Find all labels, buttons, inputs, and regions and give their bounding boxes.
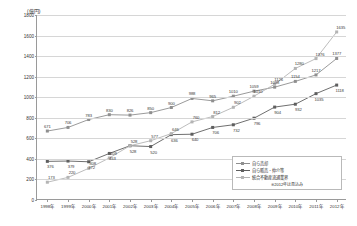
x-axis-tick-label: 2006年	[206, 203, 220, 209]
data-point-label: 812	[213, 109, 220, 114]
data-point-marker	[170, 132, 173, 135]
y-axis-tick-mark	[35, 138, 37, 139]
x-axis-tick-label: 2008年	[247, 203, 261, 209]
x-axis-tick-mark	[109, 199, 110, 202]
data-point-label: 965	[209, 93, 216, 98]
x-axis-tick-mark	[89, 199, 90, 202]
x-axis-tick-mark	[233, 199, 234, 202]
y-axis-tick-label: 200	[26, 177, 34, 182]
gridline	[37, 36, 346, 37]
legend-swatch-icon-0	[236, 160, 250, 166]
gridline	[37, 15, 346, 16]
data-point-label: 646	[172, 126, 179, 131]
data-point-marker	[191, 133, 194, 136]
x-axis-tick-label: 2003年	[144, 203, 158, 209]
legend-item-2[interactable]: 統合不動産流通業界	[236, 174, 338, 180]
data-point-label: 1377	[332, 51, 341, 56]
data-point-marker	[108, 113, 111, 116]
data-point-marker	[232, 123, 235, 126]
data-point-label: 830	[106, 107, 113, 112]
data-point-label: 1217	[312, 67, 321, 72]
data-point-label: 1376	[316, 51, 325, 56]
legend-item-1[interactable]: 自ら販売・仲介等	[236, 167, 338, 173]
x-axis-tick-mark	[275, 199, 276, 202]
data-point-label: 577	[151, 133, 158, 138]
x-axis-tick-mark	[130, 199, 131, 202]
y-axis-tick-label: 1800	[24, 13, 34, 18]
x-axis-tick-mark	[68, 199, 69, 202]
data-point-marker	[294, 80, 297, 83]
y-axis-tick-mark	[35, 159, 37, 160]
data-point-marker	[315, 92, 318, 95]
data-point-label: 796	[254, 121, 261, 126]
data-point-marker	[191, 120, 194, 123]
data-point-label: 453	[109, 156, 116, 161]
data-point-label: 760	[193, 114, 200, 119]
data-point-label: 220	[69, 170, 76, 175]
y-axis-tick-mark	[35, 36, 37, 37]
data-point-marker	[129, 144, 132, 147]
y-axis-tick-mark	[35, 179, 37, 180]
data-point-marker	[46, 130, 49, 133]
data-point-label: 1126	[274, 77, 283, 82]
data-point-marker	[211, 99, 214, 102]
y-axis-tick-mark	[35, 118, 37, 119]
data-point-label: 706	[212, 130, 219, 135]
y-axis-tick-label: 400	[26, 156, 34, 161]
data-point-label: 1035	[315, 96, 324, 101]
x-axis-tick-mark	[316, 199, 317, 202]
data-point-label: 988	[189, 91, 196, 96]
data-point-marker	[315, 57, 318, 60]
x-axis-tick-mark	[295, 199, 296, 202]
data-point-marker	[46, 160, 49, 163]
data-point-label: 732	[233, 127, 240, 132]
data-point-label: 409	[110, 150, 117, 155]
data-point-marker	[149, 145, 152, 148]
x-axis-tick-mark	[213, 199, 214, 202]
data-point-label: 1118	[336, 88, 344, 93]
data-point-marker	[335, 84, 338, 87]
data-point-marker	[67, 176, 70, 179]
data-point-marker	[335, 57, 338, 60]
x-axis-tick-label: 1998年	[40, 203, 54, 209]
data-point-label: 640	[192, 137, 199, 142]
data-point-label: 520	[150, 149, 157, 154]
data-point-label: 1010	[254, 89, 263, 94]
data-point-marker	[211, 126, 214, 129]
data-point-label: 932	[295, 107, 302, 112]
data-point-label: 826	[127, 108, 134, 113]
data-point-marker	[273, 86, 276, 89]
legend-item-0[interactable]: 自ら売却	[236, 160, 338, 166]
data-point-label: 1635	[336, 24, 345, 29]
data-point-marker	[149, 139, 152, 142]
y-axis-tick-mark	[35, 200, 37, 201]
y-axis-tick-label: 600	[26, 136, 34, 141]
data-point-label: 902	[234, 100, 241, 105]
x-axis-tick-label: 2004年	[164, 203, 178, 209]
data-point-marker	[294, 67, 297, 70]
data-point-marker	[67, 126, 70, 129]
chart-screenshot: (億円) 02004006008001000120014001600180019…	[0, 0, 357, 226]
y-axis-tick-label: 1200	[24, 74, 34, 79]
data-point-label: 376	[47, 164, 54, 169]
x-axis-tick-mark	[171, 199, 172, 202]
data-point-label: 1280	[295, 61, 304, 66]
data-point-label: 900	[168, 100, 175, 105]
x-axis-tick-mark	[192, 199, 193, 202]
data-point-label: 706	[65, 120, 72, 125]
legend-label-1: 自ら販売・仲介等	[252, 167, 284, 173]
data-point-marker	[129, 114, 132, 117]
data-point-label: 1010	[229, 89, 238, 94]
legend-footnote: ※2012年は見込み	[236, 181, 338, 187]
x-axis-tick-label: 2007年	[226, 203, 240, 209]
y-axis-tick-label: 1400	[24, 54, 34, 59]
x-axis-tick-label: 2002年	[123, 203, 137, 209]
x-axis-tick-mark	[151, 199, 152, 202]
y-axis-tick-mark	[35, 56, 37, 57]
data-point-label: 173	[48, 175, 55, 180]
y-axis-tick-label: 0	[31, 198, 34, 203]
data-point-marker	[67, 160, 70, 163]
data-point-label: 528	[131, 138, 138, 143]
data-point-label: 671	[44, 124, 51, 129]
gridline	[37, 118, 346, 119]
